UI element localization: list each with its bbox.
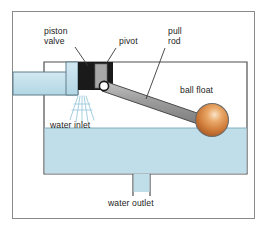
- diagram-canvas: piston valve pivot pull rod ball float w…: [0, 0, 268, 231]
- inlet-riser: [66, 62, 78, 95]
- pivot-pin: [99, 81, 108, 90]
- label-pull-rod: pull rod: [168, 26, 182, 46]
- label-ball-float: ball float: [180, 85, 213, 95]
- label-pivot: pivot: [119, 36, 138, 46]
- label-water-outlet: water outlet: [108, 198, 154, 208]
- diagram-graphics: [0, 0, 268, 231]
- label-water-inlet: water inlet: [50, 120, 90, 130]
- ball-float: [196, 104, 229, 137]
- label-piston-valve: piston valve: [44, 26, 68, 46]
- outlet-pipe-water: [134, 174, 150, 192]
